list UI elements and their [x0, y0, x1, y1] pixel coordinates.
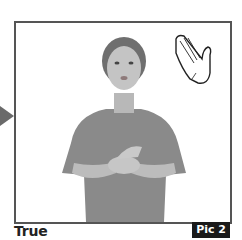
pic-number-badge: Pic 2: [192, 222, 230, 238]
sign-photo-frame: [14, 21, 232, 224]
arrow-right-icon: [0, 106, 14, 126]
caption-label: True: [14, 223, 48, 239]
flat-hand-icon: [172, 33, 216, 87]
